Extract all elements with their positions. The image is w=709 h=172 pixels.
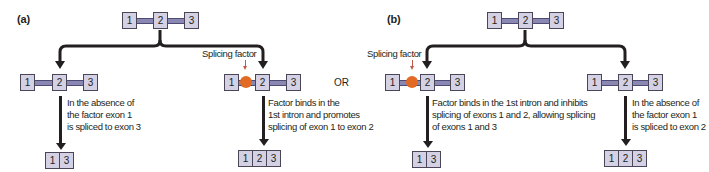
exon-3: 3 <box>427 152 440 167</box>
exon-1: 1 <box>224 74 239 91</box>
panel-a-right-product: 1 2 3 <box>238 150 281 167</box>
branch-connectors <box>0 0 709 172</box>
exon-2: 2 <box>52 74 67 91</box>
exon-1: 1 <box>20 74 35 91</box>
exon-2: 2 <box>153 12 168 29</box>
exon-3: 3 <box>549 12 564 29</box>
exon-3: 3 <box>648 74 663 91</box>
intron-1 <box>501 18 518 24</box>
exon-2: 2 <box>618 74 633 91</box>
exon-2: 2 <box>255 74 270 91</box>
panel-b-label: (b) <box>387 13 400 25</box>
intron-2 <box>168 18 184 24</box>
exon-1: 1 <box>587 74 602 91</box>
exon-3: 3 <box>267 151 280 166</box>
down-arrow <box>624 96 627 140</box>
factor-pointer-arrow-icon <box>245 60 246 67</box>
intron-2 <box>270 80 286 86</box>
panel-b-left-product: 1 3 <box>412 151 441 168</box>
splicing-factor-label: Splicing factor <box>202 48 256 59</box>
exon-1: 1 <box>487 12 502 29</box>
panel-a-left-note: In the absence of the factor exon 1 is s… <box>67 97 141 133</box>
panel-a-right-note: Factor binds in the 1st intron and promo… <box>268 97 373 133</box>
down-arrow <box>426 96 429 142</box>
exon-2: 2 <box>518 12 533 29</box>
intron-1 <box>601 80 618 86</box>
panel-a-left-product: 1 3 <box>45 152 74 169</box>
panel-b-right-note: In the absence of the factor exon 1 is s… <box>632 97 706 133</box>
down-arrow <box>59 96 62 144</box>
exon-3: 3 <box>633 151 646 166</box>
exon-2: 2 <box>619 151 633 166</box>
intron-2 <box>67 80 83 86</box>
splicing-factor-label: Splicing factor <box>367 48 421 59</box>
exon-2: 2 <box>253 151 267 166</box>
panel-b-right-product: 1 2 3 <box>604 150 647 167</box>
exon-3: 3 <box>450 74 465 91</box>
or-separator: OR <box>334 77 349 88</box>
exon-1: 1 <box>46 153 60 168</box>
down-arrow <box>262 96 265 140</box>
exon-3: 3 <box>60 153 73 168</box>
panel-a-label: (a) <box>17 13 30 25</box>
intron-1 <box>34 80 52 86</box>
intron-2 <box>633 80 648 86</box>
exon-2: 2 <box>420 74 435 91</box>
exon-1: 1 <box>413 152 427 167</box>
exon-3: 3 <box>286 74 301 91</box>
exon-1: 1 <box>605 151 619 166</box>
exon-1: 1 <box>239 151 253 166</box>
factor-pointer-arrow-icon <box>412 60 413 67</box>
exon-3: 3 <box>184 12 199 29</box>
intron-2 <box>435 80 450 86</box>
exon-1: 1 <box>385 74 400 91</box>
panel-b-left-note: Factor binds in the 1st intron and inhib… <box>432 97 595 133</box>
intron-1 <box>136 18 153 24</box>
intron-2 <box>533 18 549 24</box>
splicing-factor-dot-icon <box>240 76 252 88</box>
exon-3: 3 <box>83 74 98 91</box>
exon-1: 1 <box>122 12 137 29</box>
splicing-factor-dot-icon <box>406 76 418 88</box>
